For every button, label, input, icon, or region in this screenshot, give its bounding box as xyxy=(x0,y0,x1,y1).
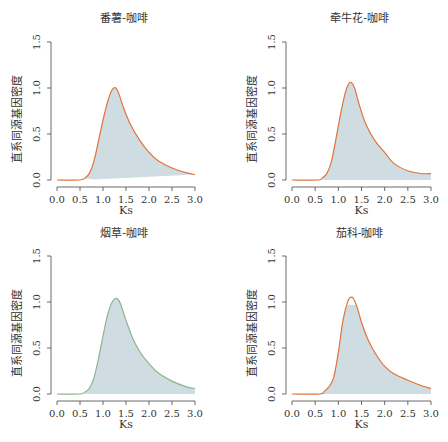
x-tick-label: 0.0 xyxy=(284,194,300,205)
x-tick-label: 2.0 xyxy=(141,408,157,419)
panel-title: 烟草-咖啡 xyxy=(100,226,148,240)
x-tick-label: 0.5 xyxy=(307,194,323,205)
density-panel-3: 0.00.51.01.5直系同源基因密度0.00.51.01.52.02.53.… xyxy=(10,226,203,431)
x-tick-label: 2.0 xyxy=(377,408,393,419)
y-tick-label: 1.5 xyxy=(31,34,42,50)
y-tick-label: 1.0 xyxy=(266,294,277,310)
x-tick-label: 3.0 xyxy=(187,194,203,205)
density-fill xyxy=(85,88,195,180)
y-tick-label: 0.0 xyxy=(31,172,42,188)
x-tick-label: 0.5 xyxy=(307,408,323,419)
x-tick-label: 3.0 xyxy=(187,408,203,419)
y-tick-label: 1.5 xyxy=(266,34,277,50)
x-axis-label: Ks xyxy=(119,418,133,431)
y-tick-label: 0.5 xyxy=(266,340,277,356)
density-fill xyxy=(322,82,431,180)
panel-title: 番薯-咖啡 xyxy=(100,11,148,25)
x-tick-label: 1.0 xyxy=(95,194,111,205)
density-panel-1: 0.00.51.01.5直系同源基因密度0.00.51.01.52.02.53.… xyxy=(10,11,203,217)
y-tick-label: 0.5 xyxy=(31,126,42,142)
density-panel-4: 0.00.51.01.5直系同源基因密度0.00.51.01.52.02.53.… xyxy=(245,226,439,431)
x-tick-label: 1.0 xyxy=(330,194,346,205)
x-tick-label: 2.5 xyxy=(400,194,416,205)
panel-title: 茄科-咖啡 xyxy=(336,226,384,240)
x-tick-label: 3.0 xyxy=(423,408,439,419)
y-axis-label: 直系同源基因密度 xyxy=(10,75,24,163)
x-axis-label: Ks xyxy=(355,418,369,431)
x-tick-label: 2.5 xyxy=(400,408,416,419)
x-tick-label: 0.5 xyxy=(72,194,88,205)
x-axis-label: Ks xyxy=(355,204,369,217)
y-tick-label: 0.5 xyxy=(31,340,42,356)
x-tick-label: 0.5 xyxy=(72,408,88,419)
y-axis-label: 直系同源基因密度 xyxy=(245,289,259,377)
x-tick-label: 3.0 xyxy=(423,194,439,205)
y-tick-label: 0.0 xyxy=(31,386,42,402)
x-tick-label: 0.0 xyxy=(49,194,65,205)
density-panel-2: 0.00.51.01.5直系同源基因密度0.00.51.01.52.02.53.… xyxy=(245,11,439,217)
x-tick-label: 2.0 xyxy=(377,194,393,205)
x-tick-label: 1.0 xyxy=(95,408,111,419)
density-fill xyxy=(320,305,431,394)
y-tick-label: 1.0 xyxy=(31,80,42,96)
panel-title: 牵牛花-咖啡 xyxy=(330,11,389,25)
y-tick-label: 1.5 xyxy=(266,248,277,264)
y-tick-label: 0.0 xyxy=(266,386,277,402)
x-tick-label: 2.5 xyxy=(164,194,180,205)
y-tick-label: 0.5 xyxy=(266,126,277,142)
x-tick-label: 0.0 xyxy=(284,408,300,419)
x-tick-label: 1.0 xyxy=(330,408,346,419)
x-tick-label: 2.0 xyxy=(141,194,157,205)
y-axis-label: 直系同源基因密度 xyxy=(245,75,259,163)
y-axis-label: 直系同源基因密度 xyxy=(10,289,24,377)
y-tick-label: 0.0 xyxy=(266,172,277,188)
figure: 0.00.51.01.5直系同源基因密度0.00.51.01.52.02.53.… xyxy=(0,0,448,442)
y-tick-label: 1.0 xyxy=(266,80,277,96)
x-tick-label: 0.0 xyxy=(49,408,65,419)
x-axis-label: Ks xyxy=(119,204,133,217)
y-tick-label: 1.5 xyxy=(31,248,42,264)
x-tick-label: 2.5 xyxy=(164,408,180,419)
y-tick-label: 1.0 xyxy=(31,294,42,310)
